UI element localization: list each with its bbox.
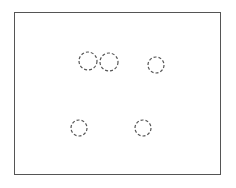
circles-canvas: [0, 0, 236, 188]
dashed-circle-4: [71, 120, 87, 136]
dashed-circle-1: [79, 52, 97, 70]
dashed-circle-3: [148, 57, 164, 73]
dashed-circle-5: [135, 120, 151, 136]
dashed-circle-2: [100, 53, 118, 71]
